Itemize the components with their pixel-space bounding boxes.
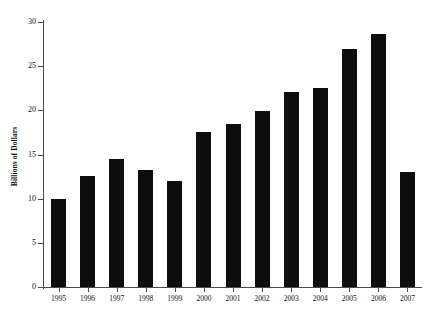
bars-layer: [44, 22, 422, 287]
y-axis-tick-label-text: 15: [6, 151, 36, 159]
x-axis-tick: [146, 288, 147, 292]
x-axis-tick: [407, 288, 408, 292]
x-axis-tick: [291, 288, 292, 292]
y-axis-tick-label: 15: [0, 151, 36, 159]
bar: [400, 172, 415, 287]
bar: [196, 132, 211, 287]
y-axis-tick-label-text: 20: [6, 106, 36, 114]
bar: [51, 199, 66, 287]
x-axis-tick-label: 1998: [131, 294, 160, 303]
bar: [80, 176, 95, 287]
x-axis-tick-label: 2007: [393, 294, 422, 303]
x-axis-tick-label: 2002: [248, 294, 277, 303]
y-axis-tick-label-text: 5: [6, 239, 36, 247]
x-axis-tick-label: 2000: [189, 294, 218, 303]
x-axis-tick-label: 1995: [44, 294, 73, 303]
y-axis-tick-label-text: 30: [6, 18, 36, 26]
y-axis-tick-label: 25: [0, 62, 36, 70]
x-axis-tick: [59, 288, 60, 292]
y-axis-tick-label-text: 0: [6, 283, 36, 291]
x-axis-tick-label: 1996: [73, 294, 102, 303]
y-axis-tick-label: 5: [0, 239, 36, 247]
x-axis-tick: [262, 288, 263, 292]
x-axis-tick: [320, 288, 321, 292]
y-axis-tick-label: 20: [0, 106, 36, 114]
bar: [371, 34, 386, 287]
x-axis-tick-label: 2003: [277, 294, 306, 303]
x-axis-tick-label: 1999: [160, 294, 189, 303]
bar: [342, 49, 357, 287]
x-axis-tick-label: 2005: [335, 294, 364, 303]
y-axis-tick-label: 10: [0, 195, 36, 203]
bar: [284, 92, 299, 287]
x-axis-tick-label: 2006: [364, 294, 393, 303]
bar: [138, 170, 153, 287]
x-axis-tick: [233, 288, 234, 292]
x-axis-tick: [175, 288, 176, 292]
bar: [109, 159, 124, 287]
x-axis-tick-label: 1997: [102, 294, 131, 303]
bar-chart-figure: Billions of Dollars 051015202530 1995199…: [0, 0, 433, 312]
x-axis-tick: [378, 288, 379, 292]
y-axis-tick-label-text: 25: [6, 62, 36, 70]
y-axis-tick-label: 0: [0, 283, 36, 291]
x-axis-tick-label: 2001: [218, 294, 247, 303]
y-axis-tick-label: 30: [0, 18, 36, 26]
bar: [313, 88, 328, 287]
x-axis-tick: [204, 288, 205, 292]
x-axis-tick: [117, 288, 118, 292]
x-axis-tick: [88, 288, 89, 292]
y-axis-tick: [38, 287, 44, 288]
bar: [226, 124, 241, 287]
x-axis-tick-label: 2004: [306, 294, 335, 303]
bar: [255, 111, 270, 287]
y-axis-tick-label-text: 10: [6, 195, 36, 203]
x-axis-tick: [349, 288, 350, 292]
bar: [167, 181, 182, 287]
